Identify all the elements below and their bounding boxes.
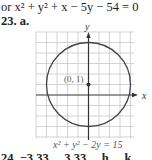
- circle-graph: y x (0, 1): [0, 0, 152, 160]
- x-axis-label: x: [141, 90, 147, 101]
- grid: [36, 32, 134, 138]
- x-axis-arrow-icon: [132, 93, 138, 97]
- graph-caption: x² + y² − 2y = 15: [53, 139, 123, 150]
- center-label: (0, 1): [64, 74, 84, 84]
- next-problem-line: 24. −3.33 ... 3.33 ... h ... k ...: [1, 151, 144, 160]
- axes: [36, 32, 138, 140]
- y-axis-label: y: [84, 21, 90, 32]
- center-point: [87, 83, 91, 87]
- y-axis-arrow-icon: [86, 32, 90, 38]
